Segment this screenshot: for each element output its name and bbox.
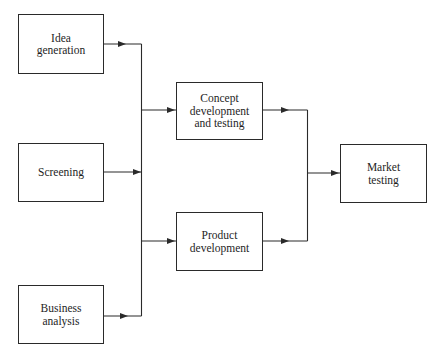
process-flow-diagram: Idea generation Screening Business analy…	[0, 0, 442, 364]
node-label: Product development	[190, 229, 249, 254]
node-label: Concept development and testing	[190, 92, 249, 130]
node-idea-generation: Idea generation	[18, 14, 104, 74]
arrowhead-icon	[167, 107, 175, 113]
node-product-development: Product development	[176, 212, 263, 271]
node-label: Business analysis	[41, 302, 82, 327]
node-label: Idea generation	[37, 32, 86, 57]
node-screening: Screening	[18, 143, 104, 202]
arrowhead-icon	[118, 41, 126, 47]
arrowhead-icon	[281, 107, 289, 113]
arrowhead-icon	[120, 313, 128, 319]
node-label: Screening	[38, 166, 84, 179]
node-label: Market testing	[367, 161, 400, 186]
arrowhead-icon	[281, 238, 289, 244]
arrowhead-icon	[331, 170, 339, 176]
node-concept-development: Concept development and testing	[176, 82, 263, 140]
node-business-analysis: Business analysis	[18, 285, 104, 344]
arrowhead-icon	[167, 238, 175, 244]
arrowhead-icon	[133, 169, 141, 175]
node-market-testing: Market testing	[340, 144, 427, 203]
